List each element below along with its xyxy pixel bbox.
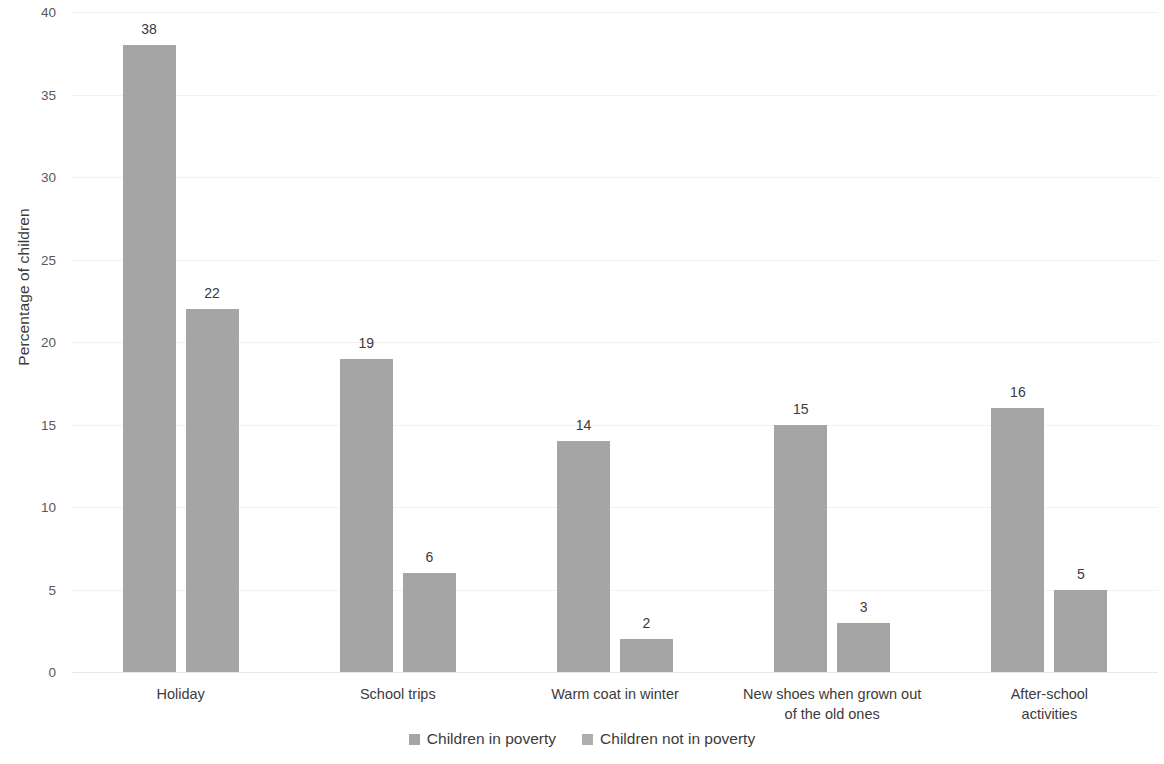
bar-chart: Percentage of children 0510152025303540 …: [0, 0, 1164, 764]
gridline: [72, 260, 1158, 261]
x-axis-category-label: School trips: [360, 684, 436, 704]
y-axis-tick-label: 20: [10, 335, 56, 350]
y-axis-tick-label: 40: [10, 5, 56, 20]
bar: [340, 359, 393, 673]
bar: [837, 623, 890, 673]
bar-value-label: 14: [576, 417, 592, 433]
x-axis-category-label: After-school activities: [992, 684, 1107, 724]
bar-value-label: 16: [1010, 384, 1026, 400]
y-axis-tick-label: 5: [10, 582, 56, 597]
bar-value-label: 2: [643, 615, 651, 631]
gridline: [72, 672, 1158, 673]
bar-value-label: 38: [141, 21, 157, 37]
y-axis-title: Percentage of children: [15, 167, 33, 407]
bar: [1054, 590, 1107, 673]
y-axis-tick-label: 10: [10, 500, 56, 515]
legend-swatch-icon: [409, 734, 420, 745]
bar: [991, 408, 1044, 672]
bar: [620, 639, 673, 672]
y-axis-tick-label: 30: [10, 170, 56, 185]
x-axis-category-label: New shoes when grown out of the old ones: [743, 684, 921, 724]
legend-item[interactable]: Children in poverty: [409, 730, 556, 748]
legend-item[interactable]: Children not in poverty: [582, 730, 755, 748]
bar-value-label: 6: [425, 549, 433, 565]
bar-value-label: 15: [793, 401, 809, 417]
bar-value-label: 19: [359, 335, 375, 351]
y-axis-tick-label: 15: [10, 417, 56, 432]
gridline: [72, 95, 1158, 96]
bar: [774, 425, 827, 673]
bar-value-label: 5: [1077, 566, 1085, 582]
y-axis-tick-label: 35: [10, 87, 56, 102]
gridline: [72, 12, 1158, 13]
legend-label: Children in poverty: [427, 730, 556, 748]
bar-value-label: 22: [204, 285, 220, 301]
x-axis-category-label: Warm coat in winter: [551, 684, 679, 704]
y-axis-tick-label: 25: [10, 252, 56, 267]
legend-label: Children not in poverty: [600, 730, 755, 748]
bar: [123, 45, 176, 672]
x-axis-category-label: Holiday: [156, 684, 204, 704]
chart-legend: Children in povertyChildren not in pover…: [0, 730, 1164, 748]
gridline: [72, 177, 1158, 178]
bar: [403, 573, 456, 672]
legend-swatch-icon: [582, 734, 593, 745]
bar: [186, 309, 239, 672]
y-axis-tick-label: 0: [10, 665, 56, 680]
bar-value-label: 3: [860, 599, 868, 615]
bar: [557, 441, 610, 672]
